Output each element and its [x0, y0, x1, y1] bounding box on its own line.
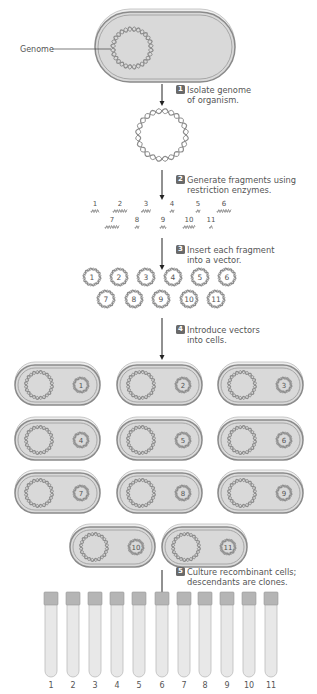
test-tube	[133, 594, 145, 677]
step-badge: 3	[176, 245, 185, 254]
arrow-head	[160, 355, 165, 360]
cell-plasmid-number: 3	[282, 382, 286, 390]
tube-cap	[66, 592, 80, 605]
fragment-number: 8	[135, 216, 139, 224]
step-text: Generate fragments using	[187, 175, 296, 185]
cell-plasmid-number: 10	[132, 544, 141, 552]
tube-cap	[198, 592, 212, 605]
tube-cap	[155, 592, 169, 605]
vector-number: 3	[144, 273, 149, 282]
tube-number: 4	[114, 681, 119, 690]
fragment-number: 10	[185, 216, 194, 224]
vector-number: 5	[198, 273, 203, 282]
tube-number: 10	[244, 681, 254, 690]
step-text: into a vector.	[176, 255, 274, 265]
arrow-head	[160, 265, 165, 270]
dna-fragment	[105, 226, 119, 229]
tube-number: 7	[181, 681, 186, 690]
tube-number: 2	[70, 681, 75, 690]
dna-fragment	[170, 210, 174, 213]
dna-fragment	[196, 210, 200, 213]
vector-number: 4	[171, 273, 176, 282]
test-tube	[45, 594, 57, 677]
fragment-number: 9	[161, 216, 165, 224]
step-badge: 5	[176, 567, 185, 576]
tube-number: 11	[266, 681, 276, 690]
tube-number: 6	[159, 681, 164, 690]
test-tube	[221, 594, 233, 677]
dna-fragment	[210, 226, 213, 229]
dna-fragment	[160, 226, 166, 229]
step-badge: 1	[176, 85, 185, 94]
step-4: 4Introduce vectors into cells.	[176, 325, 260, 345]
fragment-number: 2	[118, 200, 122, 208]
dna-fragment	[142, 210, 151, 213]
vector-number: 8	[132, 295, 137, 304]
genome-label: Genome	[20, 45, 54, 54]
step-badge: 4	[176, 325, 185, 334]
cell-plasmid-number: 7	[79, 490, 83, 498]
step-text: Isolate genome	[187, 85, 251, 95]
step-badge: 2	[176, 175, 185, 184]
step-text: Culture recombinant cells;	[187, 567, 296, 577]
cell-plasmid-number: 2	[181, 382, 185, 390]
vector-number: 11	[211, 295, 221, 304]
step-5: 5Culture recombinant cells; descendants …	[176, 567, 296, 587]
cell-plasmid-number: 11	[224, 544, 233, 552]
dna-fragment	[217, 210, 231, 213]
fragment-number: 11	[207, 216, 216, 224]
test-tube	[265, 594, 277, 677]
tube-cap	[177, 592, 191, 605]
cell-plasmid-number: 8	[181, 490, 185, 498]
cell-plasmid-number: 5	[181, 437, 185, 445]
fragment-number: 6	[222, 200, 227, 208]
vector-number: 7	[104, 295, 109, 304]
vector-number: 10	[184, 295, 194, 304]
arrow-head	[160, 195, 165, 200]
fragment-number: 7	[110, 216, 114, 224]
vector-number: 1	[90, 273, 95, 282]
step-1: 1Isolate genome of organism.	[176, 85, 251, 105]
test-tube	[111, 594, 123, 677]
fragment-number: 1	[93, 200, 97, 208]
tube-cap	[110, 592, 124, 605]
tube-cap	[242, 592, 256, 605]
vector-number: 9	[159, 295, 164, 304]
isolated-genome	[136, 109, 188, 161]
tube-number: 3	[92, 681, 97, 690]
cell-plasmid-number: 9	[282, 490, 286, 498]
vector-number: 2	[117, 273, 122, 282]
dna-fragment	[91, 210, 99, 213]
step-text: of organism.	[176, 95, 251, 105]
step-text: descendants are clones.	[176, 577, 296, 587]
cell-plasmid-number: 1	[79, 382, 83, 390]
test-tube	[89, 594, 101, 677]
test-tube	[156, 594, 168, 677]
tube-cap	[44, 592, 58, 605]
fragment-number: 5	[196, 200, 200, 208]
tube-cap	[220, 592, 234, 605]
step-text: Insert each fragment	[187, 245, 274, 255]
step-text: into cells.	[176, 335, 260, 345]
tube-number: 5	[136, 681, 141, 690]
step-2: 2Generate fragments using restriction en…	[176, 175, 296, 195]
vector-number: 6	[225, 273, 230, 282]
test-tube	[243, 594, 255, 677]
step-text: Introduce vectors	[187, 325, 260, 335]
cell-plasmid-number: 4	[79, 437, 84, 445]
arrow-head	[160, 101, 165, 106]
step-3: 3Insert each fragment into a vector.	[176, 245, 274, 265]
test-tube	[67, 594, 79, 677]
fragment-number: 4	[170, 200, 175, 208]
fragment-number: 3	[144, 200, 148, 208]
dna-fragment	[135, 226, 139, 229]
organism-cell	[95, 12, 235, 82]
tube-cap	[132, 592, 146, 605]
tube-cap	[264, 592, 278, 605]
cell-plasmid-number: 6	[282, 437, 287, 445]
tube-number: 8	[202, 681, 207, 690]
diagram-art: 1234567891011123456789101112345678910111…	[0, 0, 317, 694]
tube-cap	[88, 592, 102, 605]
test-tube	[178, 594, 190, 677]
tube-number: 1	[48, 681, 53, 690]
